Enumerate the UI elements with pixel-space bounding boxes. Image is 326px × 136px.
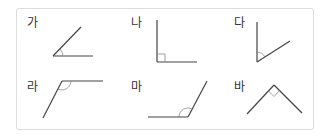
- angle-ba-icon: [247, 85, 302, 114]
- angle-da-icon: [257, 22, 290, 62]
- angle-na-icon: [157, 20, 197, 62]
- angle-ma-icon: [148, 81, 207, 117]
- angle-ra-icon: [43, 81, 103, 118]
- angle-ga-icon: [53, 27, 93, 56]
- angle-figures: [0, 0, 326, 136]
